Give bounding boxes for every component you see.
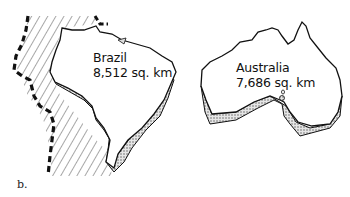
map-illustration — [0, 0, 350, 197]
brazil-label: Brazil 8,512 sq. km — [93, 50, 172, 80]
australia-label: Australia 7,686 sq. km — [236, 60, 315, 90]
dashed-coast-north — [95, 16, 108, 24]
australia-area: 7,686 sq. km — [236, 75, 315, 90]
figure-caption: b. — [17, 178, 28, 191]
brazil-country-name: Brazil — [93, 50, 172, 65]
figure-canvas: Brazil 8,512 sq. km Australia 7,686 sq. … — [0, 0, 350, 197]
brazil-area: 8,512 sq. km — [93, 65, 172, 80]
australia-country-name: Australia — [236, 60, 315, 75]
